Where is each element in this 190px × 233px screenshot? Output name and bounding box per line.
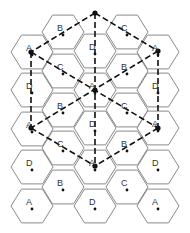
cell-center-dot	[157, 54, 160, 57]
cell-label: D	[152, 81, 159, 91]
cell-label: A	[26, 197, 32, 207]
cell-label: B	[121, 139, 127, 149]
cell-center-dot	[31, 54, 34, 57]
cell-center-dot	[157, 208, 160, 211]
cell-label: B	[57, 23, 63, 33]
cell-label: A	[89, 81, 95, 91]
cell-center-dot	[62, 73, 65, 76]
cell-label: A	[152, 43, 158, 53]
cell-center-dot	[94, 169, 97, 172]
cell-center-dot	[31, 169, 34, 172]
cell-center-dot	[62, 112, 65, 115]
cell-label: C	[121, 23, 128, 33]
cell-label: D	[152, 158, 159, 168]
cell-center-dot	[157, 169, 160, 172]
cell-center-dot	[126, 73, 129, 76]
cell-center-dot	[126, 112, 129, 115]
cell-center-dot	[62, 150, 65, 153]
cell-label: B	[57, 101, 63, 111]
cell-label: C	[57, 62, 64, 72]
cell-center-dot	[157, 92, 160, 95]
hex-cell-diagram: ADADABCBCBDADADCBCBCADADA	[0, 0, 190, 233]
cell-center-dot	[126, 34, 129, 37]
cell-label: B	[121, 62, 127, 72]
cell-center-dot	[126, 150, 129, 153]
cell-label: A	[26, 120, 32, 130]
cell-label: D	[89, 42, 96, 52]
cell-center-dot	[31, 131, 34, 134]
cell-center-dot	[94, 208, 97, 211]
cell-label: D	[26, 158, 33, 168]
cell-labels: ADADABCBCBDADADCBCBCADADA	[26, 23, 159, 207]
cell-label: A	[26, 43, 32, 53]
cell-label: C	[57, 139, 64, 149]
cell-label: C	[121, 101, 128, 111]
cell-center-dot	[94, 130, 97, 133]
cell-label: D	[89, 197, 96, 207]
cell-label: B	[57, 178, 63, 188]
cell-center-dot	[31, 208, 34, 211]
cell-center-dot	[94, 53, 97, 56]
cell-center-dot	[31, 92, 34, 95]
cell-center-dot	[126, 189, 129, 192]
cell-label: C	[121, 178, 128, 188]
cell-center-dot	[94, 92, 97, 95]
cell-label: A	[152, 119, 158, 129]
cell-label: A	[89, 158, 95, 168]
cell-center-dot	[157, 130, 160, 133]
cell-label: A	[152, 197, 158, 207]
cell-label: D	[89, 119, 96, 129]
cell-center-dot	[62, 189, 65, 192]
cell-label: D	[26, 81, 33, 91]
cell-center-dot	[62, 34, 65, 37]
reuse-vertex-dot	[92, 10, 97, 15]
